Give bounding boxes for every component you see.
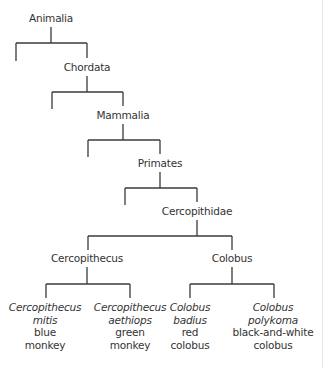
leaf-common-name: red <box>170 326 211 339</box>
leaf-common-name: black-and-white <box>233 326 314 339</box>
leaf-genus: Cercopithecus <box>94 301 166 314</box>
leaf-red-colobus: Colobus badius red colobus <box>170 301 211 351</box>
leaf-genus: Colobus <box>233 301 314 314</box>
leaf-common-name: blue <box>9 326 81 339</box>
leaf-common-name: colobus <box>170 339 211 352</box>
node-colobus: Colobus <box>212 252 253 265</box>
node-mammalia: Mammalia <box>96 109 149 122</box>
taxonomy-diagram: Animalia Chordata Mammalia Primates Cerc… <box>0 0 324 368</box>
leaf-common-name: colobus <box>233 339 314 352</box>
node-cercopithecus: Cercopithecus <box>51 252 123 265</box>
leaf-common-name: monkey <box>94 339 166 352</box>
leaf-green-monkey: Cercopithecus aethiops green monkey <box>94 301 166 351</box>
leaf-species: aethiops <box>94 314 166 327</box>
node-chordata: Chordata <box>64 61 111 74</box>
leaf-species: mitis <box>9 314 81 327</box>
leaf-genus: Cercopithecus <box>9 301 81 314</box>
node-cercopithidae: Cercopithidae <box>162 205 232 218</box>
leaf-common-name: monkey <box>9 339 81 352</box>
leaf-black-and-white-colobus: Colobus polykoma black-and-white colobus <box>233 301 314 351</box>
leaf-common-name: green <box>94 326 166 339</box>
node-animalia: Animalia <box>29 12 73 25</box>
node-primates: Primates <box>138 157 183 170</box>
leaf-species: badius <box>170 314 211 327</box>
leaf-genus: Colobus <box>170 301 211 314</box>
leaf-blue-monkey: Cercopithecus mitis blue monkey <box>9 301 81 351</box>
leaf-species: polykoma <box>233 314 314 327</box>
